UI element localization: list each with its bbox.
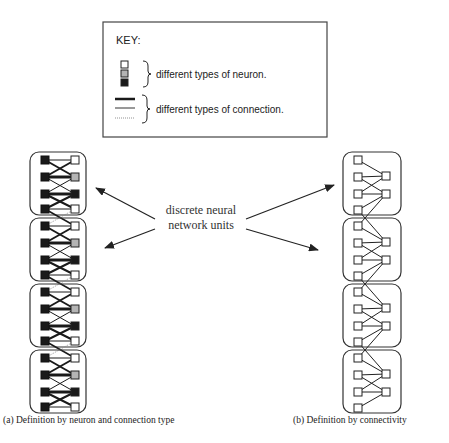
caption-a: (a) Definition by neuron and connection …: [3, 415, 174, 426]
neuron-white-icon: [354, 322, 362, 330]
neural-unit-b: [343, 284, 401, 374]
neuron-icon: [71, 256, 79, 264]
neuron-white-icon: [382, 370, 390, 378]
neuron-black-icon: [41, 173, 49, 181]
center-label-line1: discrete neural: [166, 203, 237, 217]
neuron-black-icon: [41, 388, 49, 396]
neuron-white-icon: [382, 322, 390, 330]
neuron-white-icon: [382, 304, 390, 312]
neuron-white-icon: [354, 256, 362, 264]
neural-unit-a: [30, 350, 86, 413]
neuron-white-icon: [354, 173, 362, 181]
key-box: KEY: different types of neuron. differen…: [103, 22, 327, 137]
neuron-white-icon: [382, 256, 390, 264]
neuron-white-icon: [354, 354, 362, 362]
neuron-white-icon: [354, 222, 362, 230]
neuron-white-icon: [354, 239, 362, 247]
neuron-black-icon: [41, 156, 49, 164]
neuron-white-icon: [354, 388, 362, 396]
neuron-black-icon: [41, 354, 49, 362]
neuron-white-icon: [354, 338, 362, 346]
neuron-icon: [71, 388, 79, 396]
neuron-black-icon: [41, 288, 49, 296]
neuron-white-icon: [382, 172, 390, 180]
neuron-white-icon: [382, 238, 390, 246]
caption-b: (b) Definition by connectivity: [293, 415, 407, 426]
unit-boundary: [343, 152, 401, 215]
arrow-icon: [105, 229, 155, 248]
neural-unit-a: [30, 284, 86, 358]
neuron-white-icon: [354, 156, 362, 164]
neuron-icon: [71, 403, 79, 411]
neuron-black-icon: [41, 271, 49, 279]
neuron-black-icon: [41, 222, 49, 230]
neural-unit-b: [343, 152, 401, 242]
neuron-icon: [71, 337, 79, 345]
neuron-icon: [71, 190, 79, 198]
neuron-icon: [71, 288, 79, 296]
neuron-icon: [71, 222, 79, 230]
neural-unit-a: [30, 152, 86, 226]
neuron-types-label: different types of neuron.: [156, 69, 266, 80]
figure: KEY: different types of neuron. differen…: [0, 0, 449, 443]
neuron-icon: [71, 205, 79, 213]
neuron-white-icon: [354, 404, 362, 412]
neuron-icon: [71, 156, 79, 164]
neuron-icon: [71, 322, 79, 330]
neural-unit-b: [343, 218, 401, 308]
diagram-a: [30, 152, 86, 413]
neuron-black-icon: [41, 337, 49, 345]
connection-types-label: different types of connection.: [156, 104, 284, 115]
neuron-black-icon: [41, 239, 49, 247]
neuron-icon: [71, 305, 79, 313]
neuron-white-icon: [121, 61, 128, 68]
neural-unit-b: [343, 350, 401, 413]
neuron-icon: [71, 173, 79, 181]
neuron-white-icon: [382, 190, 390, 198]
neuron-icon: [71, 239, 79, 247]
neuron-white-icon: [354, 190, 362, 198]
center-annotation: discrete neural network units: [96, 185, 334, 250]
neuron-grey-icon: [121, 70, 128, 77]
neuron-white-icon: [354, 272, 362, 280]
diagram-b: [343, 152, 401, 413]
unit-boundary: [343, 350, 401, 413]
neuron-black-icon: [41, 403, 49, 411]
neuron-icon: [71, 371, 79, 379]
neuron-black-icon: [41, 371, 49, 379]
neuron-white-icon: [354, 371, 362, 379]
neuron-icon: [71, 271, 79, 279]
neuron-icon: [71, 354, 79, 362]
key-title: KEY:: [116, 34, 140, 46]
neuron-black-icon: [41, 256, 49, 264]
arrow-icon: [96, 188, 155, 219]
unit-boundary: [343, 284, 401, 347]
neuron-black-icon: [41, 205, 49, 213]
unit-boundary: [343, 218, 401, 281]
neuron-white-icon: [354, 206, 362, 214]
neuron-black-icon: [41, 322, 49, 330]
neuron-black-icon: [41, 190, 49, 198]
center-label-line2: network units: [168, 218, 234, 232]
neuron-black-icon: [41, 305, 49, 313]
neural-unit-a: [30, 218, 86, 292]
neuron-white-icon: [354, 288, 362, 296]
arrow-icon: [246, 229, 318, 250]
neuron-white-icon: [382, 388, 390, 396]
arrow-icon: [246, 185, 334, 219]
neuron-black-icon: [121, 79, 128, 86]
neuron-white-icon: [354, 305, 362, 313]
